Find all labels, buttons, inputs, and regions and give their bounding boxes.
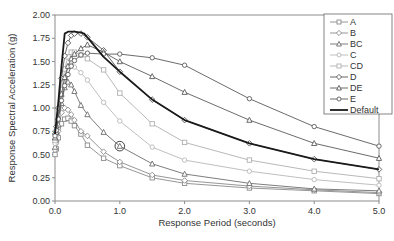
circle-marker-icon xyxy=(69,64,73,68)
x-tick-label: 4.0 xyxy=(308,206,321,216)
y-tick-label: 1.25 xyxy=(32,80,50,90)
x-tick-label: 5.0 xyxy=(373,206,386,216)
legend-label: DE xyxy=(350,83,363,93)
square-marker-icon xyxy=(118,91,122,95)
square-marker-icon xyxy=(247,158,251,162)
y-tick-label: 1.00 xyxy=(32,103,50,113)
square-marker-icon xyxy=(150,122,154,126)
y-tick-label: 0.25 xyxy=(32,173,50,183)
legend-label: CD xyxy=(350,61,363,71)
circle-marker-icon xyxy=(337,97,341,101)
x-axis-title: Response Period (seconds) xyxy=(158,217,275,228)
y-axis-ticks: 0.000.250.500.751.001.251.501.752.00 xyxy=(32,10,55,206)
circle-marker-icon xyxy=(377,183,381,187)
y-tick-label: 1.50 xyxy=(32,57,50,67)
square-marker-icon xyxy=(337,64,341,68)
circle-marker-icon xyxy=(53,134,57,138)
y-axis-title: Response Spectral Acceleration (g) xyxy=(6,34,17,183)
circle-marker-icon xyxy=(118,119,122,123)
x-axis-ticks: 0.01.02.03.04.05.0 xyxy=(49,201,386,216)
circle-marker-icon xyxy=(85,78,89,82)
circle-marker-icon xyxy=(312,124,316,128)
circle-marker-icon xyxy=(79,70,83,74)
x-tick-label: 0.0 xyxy=(49,206,62,216)
response-spectrum-chart: 0.000.250.500.751.001.251.501.752.00 0.0… xyxy=(0,0,394,241)
square-marker-icon xyxy=(377,176,381,180)
square-marker-icon xyxy=(337,20,341,24)
square-marker-icon xyxy=(101,156,105,160)
legend-label: E xyxy=(350,94,356,104)
legend: ABBCCCDDDEEDefault xyxy=(324,14,392,115)
legend-label: B xyxy=(350,28,356,38)
legend-label: Default xyxy=(350,105,379,115)
circle-marker-icon xyxy=(85,51,89,55)
circle-marker-icon xyxy=(79,53,83,57)
circle-marker-icon xyxy=(150,145,154,149)
y-tick-label: 0.00 xyxy=(32,196,50,206)
circle-marker-icon xyxy=(312,177,316,181)
circle-marker-icon xyxy=(337,53,341,57)
square-marker-icon xyxy=(312,169,316,173)
square-marker-icon xyxy=(101,68,105,72)
x-tick-label: 1.0 xyxy=(114,206,127,216)
circle-marker-icon xyxy=(66,72,70,76)
circle-marker-icon xyxy=(118,52,122,56)
circle-marker-icon xyxy=(59,98,63,102)
y-tick-label: 1.75 xyxy=(32,33,50,43)
legend-label: BC xyxy=(350,39,363,49)
legend-label: A xyxy=(350,17,356,27)
square-marker-icon xyxy=(72,123,76,127)
square-marker-icon xyxy=(182,140,186,144)
square-marker-icon xyxy=(85,143,89,147)
circle-marker-icon xyxy=(247,97,251,101)
x-tick-label: 2.0 xyxy=(178,206,191,216)
circle-marker-icon xyxy=(150,56,154,60)
y-tick-label: 0.50 xyxy=(32,150,50,160)
y-tick-label: 2.00 xyxy=(32,10,50,20)
circle-marker-icon xyxy=(247,169,251,173)
circle-marker-icon xyxy=(182,158,186,162)
square-marker-icon xyxy=(85,57,89,61)
circle-marker-icon xyxy=(377,144,381,148)
circle-marker-icon xyxy=(182,63,186,67)
circle-marker-icon xyxy=(101,100,105,104)
y-tick-label: 0.75 xyxy=(32,126,50,136)
legend-label: D xyxy=(350,72,357,82)
circle-marker-icon xyxy=(72,58,76,62)
x-tick-label: 3.0 xyxy=(243,206,256,216)
legend-label: C xyxy=(350,50,357,60)
circle-marker-icon xyxy=(63,83,67,87)
